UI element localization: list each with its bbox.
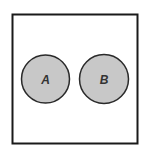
set-a: A [22,55,70,103]
set-b: B [80,55,129,104]
set-b-label: B [100,73,109,87]
venn-diagram: A B [0,0,146,151]
set-a-label: A [40,73,50,87]
